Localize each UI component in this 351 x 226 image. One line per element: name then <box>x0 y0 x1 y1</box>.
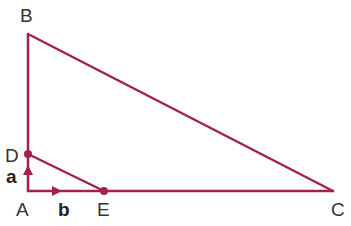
label-b: B <box>20 6 33 25</box>
label-c: C <box>331 200 345 219</box>
point-d-marker <box>24 150 32 158</box>
triangle-diagram <box>0 0 351 226</box>
vector-a-arrowhead <box>23 165 33 175</box>
segment-bc <box>28 34 333 191</box>
point-e-marker <box>100 187 108 195</box>
label-d: D <box>5 146 19 165</box>
label-a: A <box>16 200 29 219</box>
label-e: E <box>97 200 110 219</box>
vector-b-label: b <box>58 200 70 219</box>
vector-a-label: a <box>6 167 17 186</box>
vector-b-arrowhead <box>52 186 62 196</box>
segment-de <box>28 154 104 191</box>
